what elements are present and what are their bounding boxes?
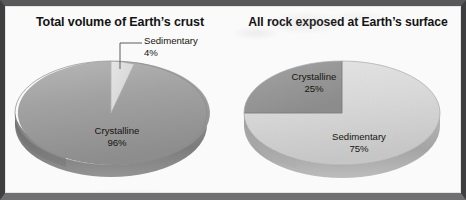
pie-label-sedimentary-left-value: 4% — [144, 47, 198, 59]
pie-label-sedimentary-right-name: Sedimentary — [332, 131, 386, 142]
pie-label-sedimentary-left-name: Sedimentary — [144, 35, 198, 46]
pie-label-crystalline-right-value: 25% — [269, 83, 359, 95]
pie-label-crystalline-right: Crystalline 25% — [269, 71, 359, 94]
pie-label-sedimentary-right-value: 75% — [304, 143, 414, 155]
pie-label-crystalline-left-value: 96% — [62, 137, 172, 149]
figure-root: Total volume of Earth’s crust — [0, 0, 466, 200]
pie-svg-surface-exposure — [234, 7, 462, 194]
pie-chart-surface-exposure — [234, 7, 462, 194]
pie-chart-total-volume — [6, 7, 234, 194]
pie-svg-total-volume — [6, 7, 234, 194]
figure-inner-panel: Total volume of Earth’s crust — [5, 6, 461, 193]
pie-label-sedimentary-right: Sedimentary 75% — [304, 131, 414, 154]
pie-label-crystalline-left: Crystalline 96% — [62, 125, 172, 148]
pie-label-crystalline-right-name: Crystalline — [292, 71, 337, 82]
chart-panel-total-volume: Total volume of Earth’s crust — [6, 7, 234, 194]
pie-label-crystalline-left-name: Crystalline — [95, 125, 140, 136]
chart-panel-surface-exposure: All rock exposed at Earth’s surface — [234, 7, 462, 194]
pie-label-sedimentary-left: Sedimentary 4% — [144, 35, 198, 58]
